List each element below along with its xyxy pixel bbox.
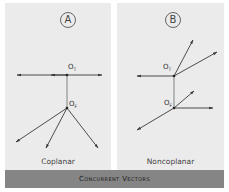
origin-top-point-a bbox=[66, 74, 69, 77]
origin-front-point-a bbox=[66, 107, 69, 110]
caption-noncoplanar: Noncoplanar bbox=[117, 157, 224, 166]
origin-front-label-b: OF bbox=[164, 99, 172, 108]
origin-subscript: F bbox=[75, 104, 78, 109]
vector-front-right bbox=[67, 108, 98, 148]
badge-a: A bbox=[60, 12, 76, 28]
origin-top-label-a: OT bbox=[68, 63, 76, 72]
badge-b: B bbox=[165, 12, 181, 28]
origin-subscript: T bbox=[169, 67, 172, 72]
title-banner: Concurrent Vectors bbox=[5, 170, 224, 188]
origin-front-label-a: OF bbox=[69, 100, 77, 109]
vector-front-up-b bbox=[174, 91, 194, 108]
origin-subscript: T bbox=[74, 67, 77, 72]
origin-subscript: F bbox=[170, 103, 173, 108]
coplanar-vectors bbox=[16, 75, 102, 148]
origin-top-label-b: OT bbox=[163, 63, 171, 72]
origin-front-point-b bbox=[173, 107, 176, 110]
caption-coplanar: Coplanar bbox=[5, 157, 111, 166]
origin-top-point-b bbox=[173, 75, 176, 78]
vector-front-mid bbox=[46, 108, 67, 148]
vector-front-left-b bbox=[137, 108, 174, 130]
noncoplanar-vectors bbox=[137, 40, 217, 130]
vector-front-left bbox=[16, 108, 67, 142]
